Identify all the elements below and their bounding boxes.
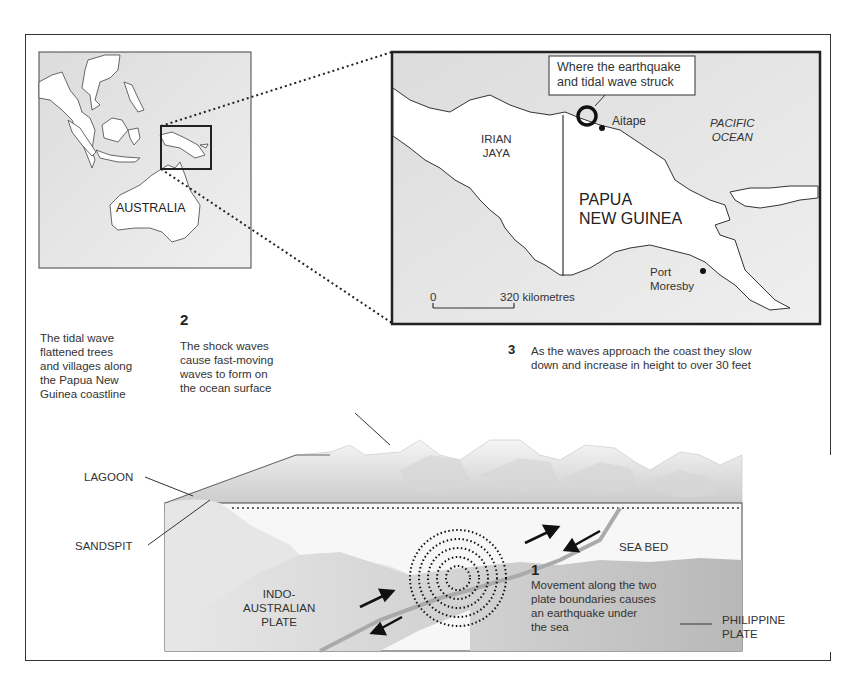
label-plate: PLATE [243,615,315,629]
caption-line: down and increase in height to over 30 f… [531,358,752,372]
caption-line: waves to form on [180,367,273,381]
caption-line: an earthquake under [531,606,656,620]
caption-line: the sea [531,620,656,634]
label-irian-jaya: IRIAN JAYA [481,132,512,160]
label-sea-bed: SEA BED [619,540,668,554]
callout-text: Where the earthquake and tidal wave stru… [557,60,681,90]
step-3-number: 3 [508,342,515,357]
label-papua-new-guinea: PAPUA NEW GUINEA [579,190,682,228]
label-aitape: Aitape [612,114,646,128]
caption-line: Guinea coastline [40,387,132,401]
scale-label: 320 kilometres [500,290,575,304]
label-pacific: PACIFIC [710,116,755,130]
label-port-moresby: Port Moresby [650,265,694,293]
label-australia: AUSTRALIA [116,201,186,215]
label-plate: PLATE [722,627,785,641]
label-philippine: PHILIPPINE [722,613,785,627]
label-sandspit: SANDSPIT [75,539,133,553]
scale-zero: 0 [430,290,436,304]
label-pacific-ocean: PACIFIC OCEAN [710,116,755,144]
label-port: Port [650,265,694,279]
step-1-number: 1 [531,561,539,578]
caption-line: Movement along the two [531,578,656,592]
caption-line: the ocean surface [180,381,273,395]
caption-line: flattened trees [40,345,132,359]
label-moresby: Moresby [650,279,694,293]
label-irian: IRIAN [481,132,512,146]
label-papua: PAPUA [579,190,682,209]
callout-line-1: Where the earthquake [557,60,681,75]
caption-line: The tidal wave [40,331,132,345]
caption-line: the Papua New [40,373,132,387]
label-ocean: OCEAN [710,130,755,144]
inset-map [392,52,820,324]
caption-line: The shock waves [180,339,273,353]
step-1-text: Movement along the two plate boundaries … [531,578,656,634]
step-2-number: 2 [180,311,188,328]
step-2-text: The shock waves cause fast-moving waves … [180,339,273,395]
label-lagoon: LAGOON [84,470,133,484]
label-indo: INDO- [243,587,315,601]
callout-line-2: and tidal wave struck [557,75,681,90]
caption-line: and villages along [40,359,132,373]
label-new-guinea: NEW GUINEA [579,209,682,228]
label-indo-australian-plate: INDO- AUSTRALIAN PLATE [243,587,315,629]
label-jaya: JAYA [481,146,512,160]
caption-line: As the waves approach the coast they slo… [531,344,752,358]
caption-line: plate boundaries causes [531,592,656,606]
caption-tidal-wave: The tidal wave flattened trees and villa… [40,331,132,401]
label-australian: AUSTRALIAN [243,601,315,615]
step-3-text: As the waves approach the coast they slo… [531,344,752,372]
caption-line: cause fast-moving [180,353,273,367]
label-philippine-plate: PHILIPPINE PLATE [722,613,785,641]
world-map [39,52,251,268]
